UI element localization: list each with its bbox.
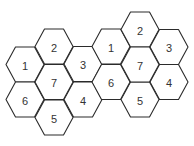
hex-cell-label: 7 (137, 60, 143, 72)
hex-cell-label: 1 (108, 42, 114, 54)
hexagon-cell-diagram: 1234567 1234567 (0, 0, 194, 146)
hex-cell-label: 2 (137, 25, 143, 37)
hex-cell-label: 2 (51, 42, 57, 54)
hex-cell-label: 3 (166, 42, 172, 54)
hex-cell-label: 1 (22, 60, 28, 72)
hex-cell-label: 7 (51, 77, 57, 89)
hex-cell-label: 4 (80, 95, 86, 107)
hex-cell-label: 6 (22, 95, 28, 107)
hex-cell-label: 5 (137, 95, 143, 107)
left-cluster: 1234567 (6, 29, 102, 135)
hex-cell-label: 6 (108, 77, 114, 89)
hex-cell-label: 5 (51, 113, 57, 125)
hex-cell-label: 4 (166, 77, 172, 89)
hex-cell-label: 3 (80, 59, 86, 71)
right-cluster: 1234567 (92, 12, 188, 117)
